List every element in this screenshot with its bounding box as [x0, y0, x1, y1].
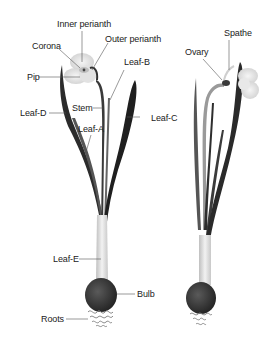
- label-pip: Pip: [27, 72, 40, 82]
- left-plant: [60, 53, 136, 327]
- label-spathe: Spathe: [224, 28, 252, 38]
- label-corona: Corona: [32, 41, 61, 51]
- plant-illustrations: [0, 0, 274, 352]
- label-leaf-a: Leaf-A: [78, 124, 104, 134]
- label-outer-perianth: Outer perianth: [105, 34, 161, 44]
- label-inner-perianth: Inner perianth: [57, 19, 111, 29]
- right-plant: [186, 62, 259, 325]
- label-leaf-b: Leaf-B: [124, 57, 150, 67]
- label-leaf-e: Leaf-E: [53, 254, 79, 264]
- label-stem: Stem: [72, 103, 93, 113]
- right-bulb-shape: [186, 282, 216, 314]
- ovary-shape: [222, 80, 230, 86]
- plant-anatomy-diagram: Inner perianth Corona Outer perianth Pip…: [0, 0, 274, 352]
- leaf-e-shape: [96, 215, 108, 282]
- label-bulb: Bulb: [137, 289, 155, 299]
- label-ovary: Ovary: [185, 47, 209, 57]
- bulb-shape: [85, 278, 117, 312]
- roots-shape: [88, 311, 113, 327]
- label-leaf-c: Leaf-C: [151, 113, 177, 123]
- label-leaf-d: Leaf-D: [20, 108, 46, 118]
- label-roots: Roots: [41, 314, 64, 324]
